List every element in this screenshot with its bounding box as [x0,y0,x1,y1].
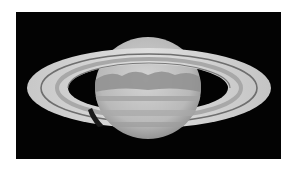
saturn-image [0,0,297,171]
